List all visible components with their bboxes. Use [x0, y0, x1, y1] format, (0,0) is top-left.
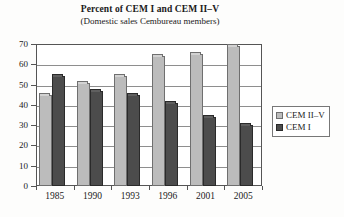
- bar: [165, 103, 178, 186]
- bar: [227, 46, 240, 186]
- x-axis-tick-mark: [74, 186, 75, 190]
- bar-group: [149, 44, 187, 186]
- x-axis-tick-label: 1996: [158, 191, 177, 202]
- y-axis-tick-label: 70: [19, 39, 28, 49]
- bar-group: [36, 44, 74, 186]
- x-axis-tick-label: 2001: [196, 191, 215, 202]
- y-axis-tick-label: 10: [19, 161, 28, 171]
- page-title: Percent of CEM I and CEM II–V: [0, 3, 300, 15]
- legend-item-label: CEM II–V: [286, 109, 325, 121]
- legend: CEM II–V CEM I: [272, 106, 330, 137]
- x-axis-tick-label: 2005: [234, 191, 253, 202]
- legend-swatch-icon: [276, 124, 283, 131]
- legend-swatch-icon: [276, 112, 283, 119]
- x-axis-tick-mark: [111, 186, 112, 190]
- bar: [39, 95, 52, 186]
- chart-subtitle: (Domestic sales Cembureau members): [0, 15, 300, 27]
- bar-group: [111, 44, 149, 186]
- y-axis-tick-label: 60: [19, 59, 28, 69]
- bar: [77, 83, 90, 186]
- x-axis-tick-mark: [262, 186, 263, 190]
- bar-group: [224, 44, 262, 186]
- y-axis: 010203040506070: [0, 38, 36, 192]
- x-axis: 198519901993199620012005: [36, 186, 262, 212]
- bar: [152, 56, 165, 186]
- legend-item-cem-ii-v[interactable]: CEM II–V: [276, 109, 325, 121]
- bar: [90, 91, 103, 186]
- y-axis-tick-label: 30: [19, 120, 28, 130]
- bars-layer: [36, 44, 262, 186]
- chart-figure: Percent of CEM I and CEM II–V (Domestic …: [0, 0, 344, 217]
- y-axis-tick-label: 20: [19, 140, 28, 150]
- x-axis-tick-label: 1985: [45, 191, 64, 202]
- bar-group: [187, 44, 225, 186]
- bar: [190, 54, 203, 186]
- x-axis-tick-mark: [187, 186, 188, 190]
- bar: [114, 76, 127, 186]
- x-axis-tick-mark: [149, 186, 150, 190]
- bar: [203, 117, 216, 186]
- x-axis-tick-label: 1990: [83, 191, 102, 202]
- legend-item-cem-i[interactable]: CEM I: [276, 121, 325, 133]
- y-axis-tick-label: 40: [19, 100, 28, 110]
- y-axis-tick-label: 50: [19, 80, 28, 90]
- bar: [240, 125, 253, 186]
- bar: [52, 76, 65, 186]
- title-block: Percent of CEM I and CEM II–V (Domestic …: [0, 3, 300, 27]
- x-axis-tick-mark: [224, 186, 225, 190]
- y-axis-tick-label: 0: [24, 181, 29, 191]
- legend-item-label: CEM I: [286, 121, 311, 133]
- x-axis-tick-label: 1993: [121, 191, 140, 202]
- x-axis-tick-mark: [36, 186, 37, 190]
- bar: [127, 95, 140, 186]
- bar-group: [74, 44, 112, 186]
